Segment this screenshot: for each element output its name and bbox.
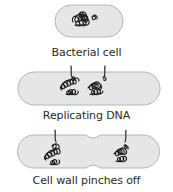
stage-bacterial-cell — [55, 5, 123, 37]
stage-label-bacterial-cell: Bacterial cell — [0, 46, 173, 59]
stage-label-replicating-dna: Replicating DNA — [0, 109, 173, 122]
stage-replicating-dna — [18, 66, 160, 105]
stage-label-cell-wall-pinches: Cell wall pinches off — [0, 174, 173, 187]
stage-cell-wall-pinches — [18, 130, 160, 168]
dividing-cell-body — [18, 135, 160, 168]
binary-fission-diagram — [0, 0, 173, 192]
